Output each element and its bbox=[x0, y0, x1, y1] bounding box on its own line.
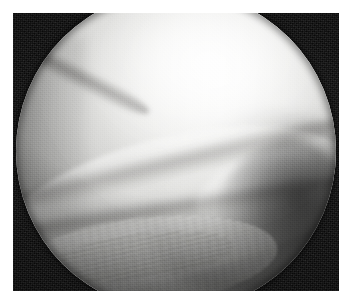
photo-plate bbox=[13, 13, 339, 291]
endoscopic-field-of-view bbox=[16, 13, 336, 291]
arthroscopy-figure bbox=[0, 0, 348, 299]
figure-caption bbox=[0, 0, 1, 1]
field-edge-shadow bbox=[16, 13, 336, 291]
